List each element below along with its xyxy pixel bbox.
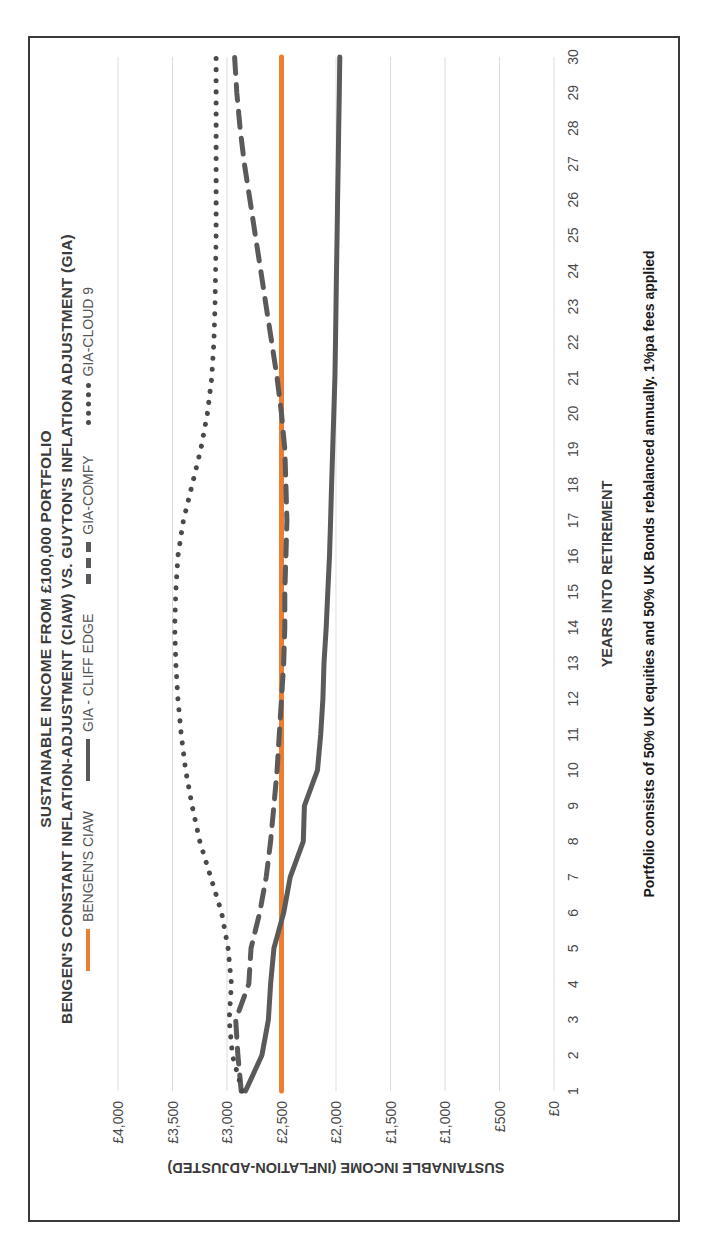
y-tick-label: £1,000 [437, 1101, 453, 1144]
x-tick-label: 22 [565, 334, 581, 350]
x-tick-label: 14 [565, 619, 581, 635]
x-tick-label: 9 [565, 802, 581, 810]
x-tick-label: 16 [565, 548, 581, 564]
x-tick-label: 15 [565, 584, 581, 600]
y-tick-label: £2,000 [328, 1101, 344, 1144]
x-tick-label: 1 [565, 1087, 581, 1095]
x-tick-label: 13 [565, 655, 581, 671]
x-tick-label: 6 [565, 909, 581, 917]
y-axis-title: SUSTAINABLE INCOME (INFLATION-ADJUSTED) [167, 1160, 504, 1176]
y-tick-label: £1,500 [383, 1101, 399, 1144]
x-tick-label: 30 [565, 49, 581, 65]
x-tick-label: 19 [565, 441, 581, 457]
page-root: SUSTAINABLE INCOME FROM £100,000 PORTFOL… [0, 0, 709, 1259]
x-axis-title: YEARS INTO RETIREMENT [599, 481, 615, 668]
chart-container: SUSTAINABLE INCOME FROM £100,000 PORTFOL… [34, 49, 674, 1209]
y-tick-label: £3,000 [219, 1101, 235, 1144]
x-tick-label: 28 [565, 120, 581, 136]
x-tick-label: 2 [565, 1051, 581, 1059]
y-tick-label: £4,000 [110, 1101, 126, 1144]
chart-plot-area: £4,000£3,500£3,000£2,500£2,000£1,500£1,0… [34, 49, 674, 1209]
x-tick-label: 18 [565, 477, 581, 493]
x-tick-label: 10 [565, 762, 581, 778]
x-tick-label: 21 [565, 370, 581, 386]
y-tick-label: £0 [546, 1101, 562, 1117]
series-line-gia-cliff-edge [246, 57, 340, 1091]
x-tick-label: 8 [565, 837, 581, 845]
x-tick-label: 17 [565, 513, 581, 529]
y-tick-label: £3,500 [165, 1101, 181, 1144]
x-tick-label: 12 [565, 691, 581, 707]
x-tick-label: 23 [565, 299, 581, 315]
x-tick-label: 26 [565, 192, 581, 208]
y-tick-label: £2,500 [274, 1101, 290, 1144]
x-tick-label: 3 [565, 1016, 581, 1024]
x-tick-label: 7 [565, 873, 581, 881]
x-tick-label: 20 [565, 406, 581, 422]
x-tick-label: 5 [565, 944, 581, 952]
x-tick-label: 27 [565, 156, 581, 172]
x-tick-label: 29 [565, 85, 581, 101]
y-tick-label: £500 [492, 1101, 508, 1132]
chart-footnote: Portfolio consists of 50% UK equities an… [641, 250, 657, 897]
chart-frame: SUSTAINABLE INCOME FROM £100,000 PORTFOL… [28, 36, 680, 1222]
x-tick-label: 24 [565, 263, 581, 279]
rotated-chart-canvas: SUSTAINABLE INCOME FROM £100,000 PORTFOL… [34, 49, 674, 1209]
x-tick-label: 25 [565, 227, 581, 243]
x-tick-label: 11 [565, 727, 581, 742]
x-tick-label: 4 [565, 980, 581, 988]
series-line-gia-cloud-9 [175, 57, 243, 1091]
